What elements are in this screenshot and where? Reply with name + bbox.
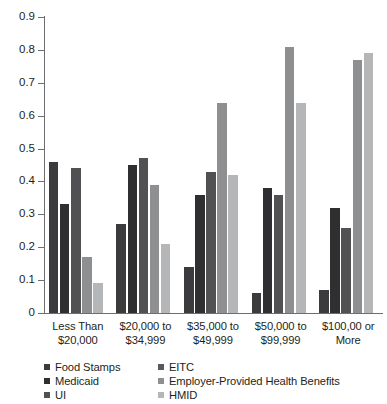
x-axis-line — [44, 313, 383, 314]
chart-legend: Food StampsMedicaidUI EITCEmployer-Provi… — [44, 360, 384, 404]
x-axis-label-line: $35,000 to — [179, 320, 247, 334]
legend-swatch-icon — [158, 392, 164, 398]
bar — [71, 168, 81, 313]
y-axis-tick-label: 0.8 — [0, 44, 35, 55]
bar — [341, 228, 351, 314]
legend-label: HMID — [169, 389, 197, 401]
bar — [150, 185, 160, 313]
bar — [161, 244, 171, 313]
x-axis-label-line: More — [314, 334, 382, 348]
x-axis-label-line: $100,00 or — [314, 320, 382, 334]
plot-area — [44, 17, 382, 313]
bar — [319, 290, 329, 313]
bar — [184, 267, 194, 313]
bar-group — [179, 17, 247, 313]
x-axis-label-line: Less Than — [44, 320, 112, 334]
bar — [49, 162, 59, 313]
legend-item: Medicaid — [44, 374, 120, 388]
bar — [93, 283, 103, 313]
y-axis-tick-label: 0 — [0, 307, 35, 318]
x-axis-label-line: $99,999 — [247, 334, 315, 348]
legend-item: Food Stamps — [44, 360, 120, 374]
legend-item: Employer-Provided Health Benefits — [158, 374, 340, 388]
bar — [116, 224, 126, 313]
bar — [128, 165, 138, 313]
x-axis-label-line: $49,999 — [179, 334, 247, 348]
bar-group — [112, 17, 180, 313]
x-axis-category-label: $35,000 to$49,999 — [179, 320, 247, 347]
x-axis-category-label: $20,000 to$34,999 — [112, 320, 180, 347]
y-axis-tick-label: 0.7 — [0, 77, 35, 88]
bar — [263, 188, 273, 313]
legend-item: HMID — [158, 388, 340, 402]
y-axis-tick-label: 0.9 — [0, 11, 35, 22]
bar — [60, 204, 70, 313]
bar — [296, 103, 306, 313]
x-axis-category-label: $50,000 to$99,999 — [247, 320, 315, 347]
y-axis-tick-label: 0.2 — [0, 241, 35, 252]
y-axis-tick-label: 0.3 — [0, 208, 35, 219]
legend-swatch-icon — [158, 364, 164, 370]
legend-label: Food Stamps — [55, 361, 120, 373]
bar — [364, 53, 374, 313]
bar-group — [314, 17, 382, 313]
y-axis-tick-label: 0.5 — [0, 143, 35, 154]
y-axis-tick-label: 0.1 — [0, 274, 35, 285]
bar — [82, 257, 92, 313]
bar-group — [247, 17, 315, 313]
bar — [353, 60, 363, 313]
x-axis-category-label: Less Than$20,000 — [44, 320, 112, 347]
legend-column-left: Food StampsMedicaidUI — [44, 360, 120, 402]
bar — [217, 103, 227, 313]
legend-swatch-icon — [158, 378, 164, 384]
legend-label: Medicaid — [55, 375, 99, 387]
bar — [252, 293, 262, 313]
x-axis-label-line: $50,000 to — [247, 320, 315, 334]
y-axis-tick-label: 0.4 — [0, 175, 35, 186]
bar — [274, 195, 284, 313]
bar — [206, 172, 216, 313]
legend-item: UI — [44, 388, 120, 402]
bar — [285, 47, 295, 313]
bar-chart: 0.90.80.70.60.50.40.30.20.10 Less Than$2… — [0, 0, 387, 404]
legend-label: Employer-Provided Health Benefits — [169, 375, 340, 387]
x-axis-label-line: $20,000 to — [112, 320, 180, 334]
legend-label: EITC — [169, 361, 194, 373]
x-axis-category-label: $100,00 orMore — [314, 320, 382, 347]
bar — [139, 158, 149, 313]
legend-swatch-icon — [44, 378, 50, 384]
legend-item: EITC — [158, 360, 340, 374]
legend-label: UI — [55, 389, 66, 401]
y-axis-tick-label: 0.6 — [0, 110, 35, 121]
x-axis-label-line: $20,000 — [44, 334, 112, 348]
bar — [330, 208, 340, 313]
legend-swatch-icon — [44, 392, 50, 398]
legend-swatch-icon — [44, 364, 50, 370]
x-axis-label-line: $34,999 — [112, 334, 180, 348]
legend-column-right: EITCEmployer-Provided Health BenefitsHMI… — [158, 360, 340, 402]
bar — [195, 195, 205, 313]
bar — [228, 175, 238, 313]
bar-group — [44, 17, 112, 313]
